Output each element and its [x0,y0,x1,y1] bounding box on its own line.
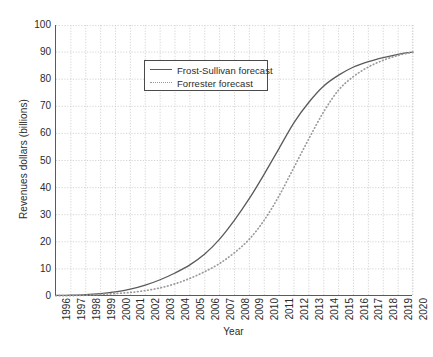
y-tick-label: 90 [11,47,51,57]
x-tick-label: 2011 [284,298,296,344]
x-tick-label: 1999 [106,298,118,344]
x-tick-label: 2020 [418,298,430,344]
x-tick-label: 2013 [314,298,326,344]
x-tick-label: 1997 [76,298,88,344]
x-tick-label: 2017 [373,298,385,344]
legend-item-frost-sullivan: Frost-Sullivan forecast [150,64,262,76]
x-tick-label: 1998 [91,298,103,344]
x-tick-label: 2001 [135,298,147,344]
plot-area: Frost-Sullivan forecast Forrester foreca… [55,25,412,296]
x-axis-title: Year [55,326,412,337]
x-tick-label: 2018 [388,298,400,344]
y-tick-label: 70 [11,101,51,111]
y-tick-label: 100 [11,20,51,30]
legend-item-forrester: Forrester forecast [150,77,262,89]
x-tick-label: 2003 [165,298,177,344]
x-tick-label: 2012 [299,298,311,344]
legend-solid-line-swatch-icon [150,65,172,75]
x-tick-label: 2008 [240,298,252,344]
x-tick-label: 2000 [121,298,133,344]
y-axis-tick-labels: 0102030405060708090100 [8,25,51,296]
y-tick-label: 50 [11,156,51,166]
y-tick-label: 60 [11,128,51,138]
x-tick-label: 2006 [210,298,222,344]
x-tick-label: 1996 [61,298,73,344]
revenue-forecast-chart: Revenues dollars (billions) 010203040506… [0,0,433,357]
x-tick-label: 2015 [344,298,356,344]
x-tick-label: 2002 [150,298,162,344]
y-tick-label: 80 [11,74,51,84]
x-tick-label: 2005 [195,298,207,344]
legend-dotted-line-swatch-icon [150,78,172,88]
x-tick-label: 2009 [254,298,266,344]
x-tick-label: 2007 [225,298,237,344]
x-tick-label: 2014 [329,298,341,344]
legend-label: Frost-Sullivan forecast [177,65,273,76]
x-tick-label: 2004 [180,298,192,344]
legend-label: Forrester forecast [177,78,253,89]
x-tick-label: 2010 [269,298,281,344]
y-tick-label: 30 [11,210,51,220]
x-tick-label: 2016 [359,298,371,344]
y-tick-label: 10 [11,264,51,274]
x-axis-tick-labels: 1996199719981999200020012002200320042005… [55,298,412,344]
x-tick-label: 2019 [403,298,415,344]
chart-legend: Frost-Sullivan forecast Forrester foreca… [144,60,268,91]
y-tick-label: 20 [11,237,51,247]
y-tick-label: 40 [11,183,51,193]
y-tick-label: 0 [11,291,51,301]
